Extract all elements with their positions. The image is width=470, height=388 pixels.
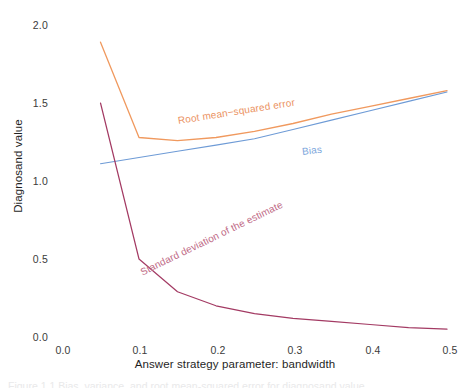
x-tick-0-3: 0.3 [275, 344, 315, 356]
chart-figure: 2.0 1.5 1.0 0.5 0.0 0.0 0.1 0.2 0.3 0.4 … [0, 0, 470, 388]
chart-plot-area [0, 0, 470, 388]
series-line-root-mean-squared-error [101, 42, 448, 140]
series-line-standard-deviation [101, 103, 448, 329]
y-tick-0-5: 0.5 [18, 253, 48, 265]
x-tick-0-2: 0.2 [198, 344, 238, 356]
x-tick-0-5: 0.5 [430, 344, 470, 356]
x-axis-title: Answer strategy parameter: bandwidth [0, 358, 470, 370]
x-tick-0-1: 0.1 [120, 344, 160, 356]
y-tick-2-0: 2.0 [18, 19, 48, 31]
y-axis-title: Diagnosand value [12, 96, 24, 236]
x-tick-0-0: 0.0 [43, 344, 83, 356]
y-tick-0-0: 0.0 [18, 331, 48, 343]
x-tick-0-4: 0.4 [353, 344, 393, 356]
figure-caption: Figure 1.1 Bias, variance, and root mean… [0, 376, 470, 388]
